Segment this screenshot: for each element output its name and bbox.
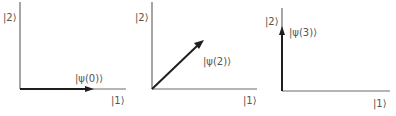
panel-psi-3: |2⟩ |1⟩ |ψ(3)⟩ (265, 8, 390, 110)
y-axis-label: |2⟩ (135, 12, 149, 24)
state-vector (152, 46, 197, 89)
vector-label: |ψ(2)⟩ (203, 56, 231, 68)
x-axis-label: |1⟩ (111, 95, 125, 107)
vector-label: |ψ(0)⟩ (75, 73, 103, 85)
panel-psi-0: |2⟩ |1⟩ |ψ(0)⟩ (3, 2, 126, 107)
arrowhead-icon (279, 26, 285, 35)
diagram-canvas: |2⟩ |1⟩ |ψ(0)⟩ |2⟩ |1⟩ |ψ(2)⟩ |2⟩ |1⟩ |ψ… (0, 0, 396, 116)
x-axis-label: |1⟩ (373, 98, 387, 110)
arrowhead-icon (85, 86, 94, 92)
vector-label: |ψ(3)⟩ (289, 27, 317, 39)
y-axis-label: |2⟩ (3, 12, 17, 24)
panel-psi-2: |2⟩ |1⟩ |ψ(2)⟩ (135, 2, 257, 107)
x-axis-label: |1⟩ (243, 95, 257, 107)
y-axis-label: |2⟩ (265, 16, 279, 28)
